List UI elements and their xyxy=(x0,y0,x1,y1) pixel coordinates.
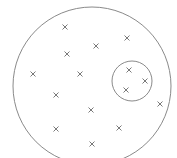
x-mark-icon xyxy=(63,25,68,30)
x-mark-icon xyxy=(78,72,83,77)
x-mark-icon xyxy=(117,126,122,131)
large-circle xyxy=(13,7,171,158)
x-mark-icon-inside xyxy=(124,88,129,93)
x-mark-icon xyxy=(31,72,36,77)
x-mark-icon-inside xyxy=(143,79,148,84)
diagram-canvas xyxy=(0,0,177,158)
x-mark-icon xyxy=(125,36,130,41)
x-mark-icon xyxy=(94,44,99,49)
x-mark-icon xyxy=(54,127,59,132)
x-mark-icon xyxy=(90,142,95,147)
small-circle xyxy=(112,61,152,101)
x-marks-group xyxy=(31,25,163,147)
x-mark-icon xyxy=(89,108,94,113)
x-mark-icon xyxy=(54,93,59,98)
x-mark-icon xyxy=(158,102,163,107)
x-mark-icon xyxy=(65,52,70,57)
x-mark-icon-inside xyxy=(127,68,132,73)
